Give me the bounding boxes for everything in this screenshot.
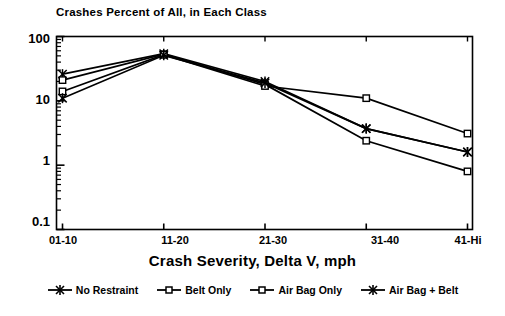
legend-marker-asterisk-icon [47,284,73,296]
legend-label-air-bag-plus-belt: Air Bag + Belt [389,284,458,296]
data-point-marker-square [464,168,470,174]
data-point-marker-asterisk [58,93,66,103]
legend-label-air-bag-only: Air Bag Only [278,284,342,296]
plot-area [0,0,505,316]
data-point-marker-square [59,77,65,83]
legend-marker-asterisk-alt-icon [360,284,386,296]
legend-marker-square-icon [156,284,182,296]
legend-item-belt-only: Belt Only [156,284,231,296]
chart-legend: No Restraint Belt Only Air Bag Only Air … [0,284,505,296]
legend-marker-square-open-icon [249,284,275,296]
legend-item-no-restraint: No Restraint [47,284,138,296]
series-layer [58,49,471,175]
legend-label-belt-only: Belt Only [185,284,231,296]
y-axis-ticks [57,37,65,230]
data-point-marker-square [464,130,470,136]
legend-label-no-restraint: No Restraint [76,284,138,296]
series-air-bag-belt [58,50,471,157]
legend-item-air-bag-plus-belt: Air Bag + Belt [360,284,458,296]
data-point-marker-square [363,95,369,101]
legend-item-air-bag-only: Air Bag Only [249,284,342,296]
data-point-marker-square [363,138,369,144]
series-line [63,55,468,134]
chart-figure: Crashes Percent of All, in Each Class 10… [0,0,505,316]
